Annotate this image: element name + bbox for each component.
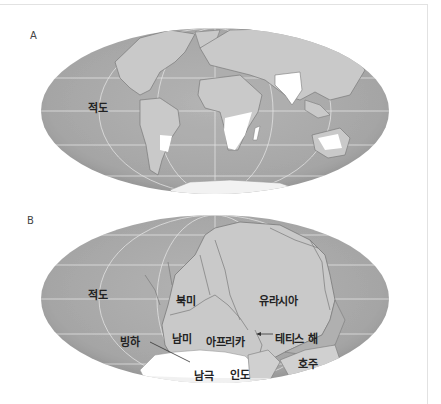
label-eurasia: 유라시아 (259, 292, 298, 308)
label-australia: 호주 (298, 355, 317, 371)
label-equator-b: 적도 (88, 286, 107, 302)
label-tethys-sea: 테티스 해 (275, 330, 317, 346)
map-b-pangaea (0, 200, 441, 404)
map-a-present-day (0, 0, 441, 200)
label-india: 인도 (230, 366, 249, 382)
label-glacier: 빙하 (120, 333, 139, 349)
label-south-america: 남미 (172, 330, 191, 346)
label-equator-a: 적도 (88, 99, 107, 115)
label-africa: 아프리카 (206, 333, 245, 349)
label-north-america: 북미 (176, 292, 195, 308)
label-antarctica: 남극 (194, 367, 213, 383)
